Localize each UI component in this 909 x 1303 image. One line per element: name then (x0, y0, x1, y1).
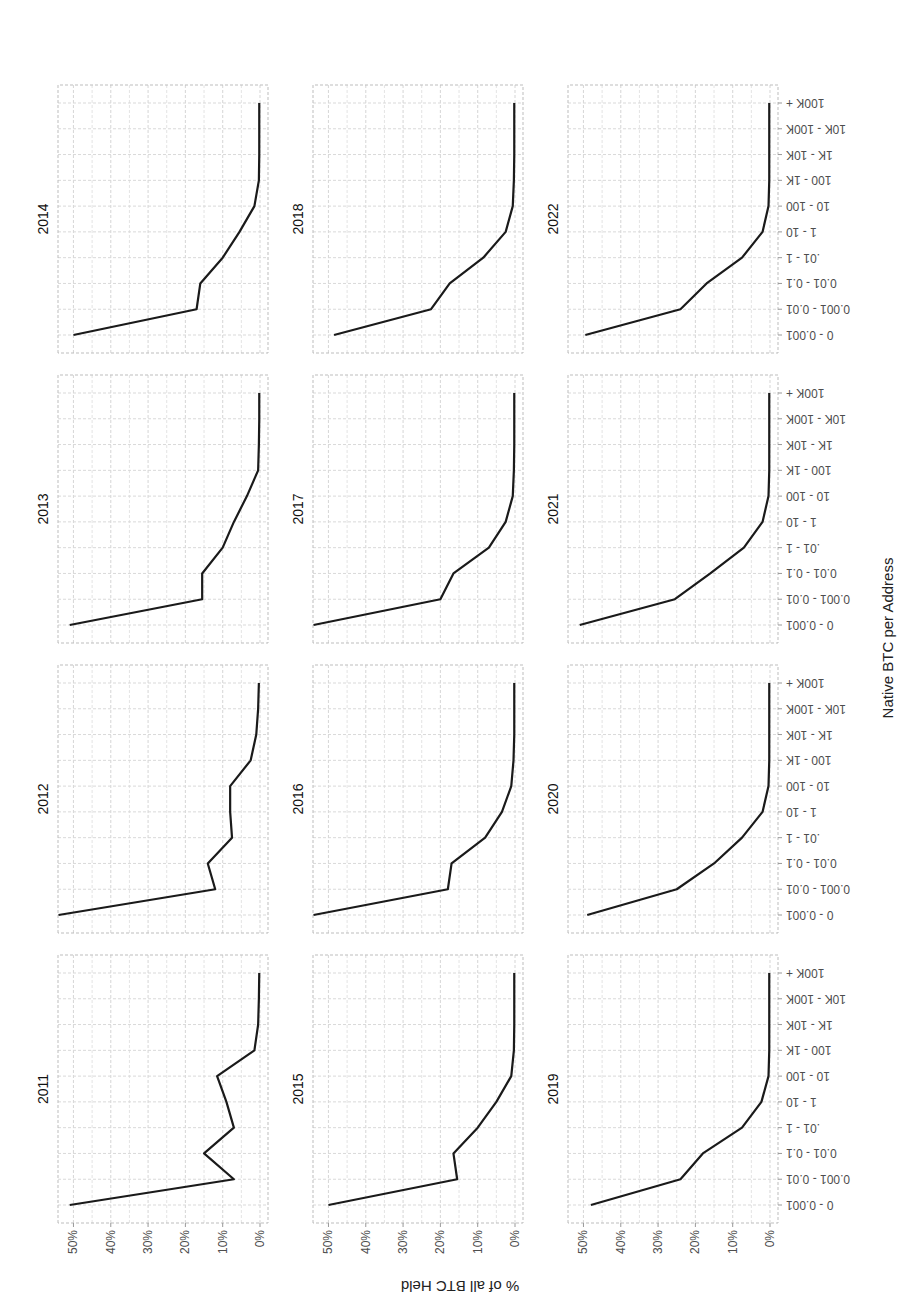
faceted-line-chart: 20110%10%20%30%40%50%20122013201420150%1… (0, 0, 909, 1303)
panel-title: 2019 (545, 1073, 561, 1104)
x-tick-label: 100K + (786, 96, 824, 110)
facet-panel-2022: 20220 - 0.0010.001 - 0.010.01 - 0.1.01 -… (545, 85, 850, 353)
x-tick-label: 1 - 10 (786, 515, 817, 529)
y-tick-label: 10% (726, 1230, 740, 1254)
x-tick-label: 10K - 100K (786, 412, 846, 426)
x-tick-label: 0 - 0.001 (786, 328, 834, 342)
x-tick-label: .01 - 1 (786, 251, 820, 265)
series-line (70, 973, 260, 1205)
x-tick-label: 10 - 100 (786, 489, 830, 503)
facet-panel-2018: 2018 (290, 85, 523, 353)
x-tick-label: 100K + (786, 966, 824, 980)
panel-title: 2021 (545, 493, 561, 524)
x-tick-label: 1K - 10K (786, 438, 833, 452)
facet-panel-2019: 20190%10%20%30%40%50%0 - 0.0010.001 - 0.… (545, 955, 850, 1254)
series-line (314, 393, 515, 625)
x-tick-label: .01 - 1 (786, 1121, 820, 1135)
x-tick-label: 10K - 100K (786, 992, 846, 1006)
y-tick-label: 50% (321, 1230, 335, 1254)
series-line (70, 393, 260, 625)
x-tick-label: 100K + (786, 676, 824, 690)
y-axis-title: % of all BTC Held (401, 1278, 519, 1295)
x-tick-label: 0 - 0.001 (786, 908, 834, 922)
x-tick-label: 0.001 - 0.01 (786, 302, 850, 316)
y-tick-label: 20% (178, 1230, 192, 1254)
x-tick-label: 0.001 - 0.01 (786, 592, 850, 606)
y-tick-label: 40% (614, 1230, 628, 1254)
panel-grid: 20110%10%20%30%40%50%20122013201420150%1… (35, 85, 850, 1254)
x-tick-label: 100 - 1K (786, 173, 831, 187)
x-tick-label: 1K - 10K (786, 148, 833, 162)
series-line (591, 973, 769, 1205)
y-tick-label: 40% (359, 1230, 373, 1254)
x-tick-label: 10 - 100 (786, 1069, 830, 1083)
y-tick-label: 10% (216, 1230, 230, 1254)
y-tick-label: 30% (651, 1230, 665, 1254)
x-tick-label: 1 - 10 (786, 225, 817, 239)
y-tick-label: 0% (253, 1230, 267, 1248)
x-tick-label: 1K - 10K (786, 728, 833, 742)
y-tick-label: 50% (66, 1230, 80, 1254)
x-tick-label: 100 - 1K (786, 1043, 831, 1057)
series-line (580, 393, 770, 625)
y-tick-label: 40% (104, 1230, 118, 1254)
facet-panel-2021: 20210 - 0.0010.001 - 0.010.01 - 0.1.01 -… (545, 375, 850, 643)
panel-title: 2013 (35, 493, 51, 524)
x-axis-title: Native BTC per Address (879, 558, 896, 719)
facet-panel-2014: 2014 (35, 85, 268, 353)
panel-title: 2011 (35, 1074, 51, 1104)
x-tick-label: 10 - 100 (786, 199, 830, 213)
series-line (328, 973, 514, 1205)
x-tick-label: 10K - 100K (786, 702, 846, 716)
panel-title: 2018 (290, 203, 306, 234)
facet-panel-2020: 20200 - 0.0010.001 - 0.010.01 - 0.1.01 -… (545, 665, 850, 933)
series-line (587, 683, 769, 915)
y-tick-label: 30% (396, 1230, 410, 1254)
x-tick-label: 0.01 - 0.1 (786, 1146, 837, 1160)
facet-panel-2017: 2017 (290, 375, 523, 643)
y-tick-label: 20% (688, 1230, 702, 1254)
x-tick-label: 0.001 - 0.01 (786, 1172, 850, 1186)
facet-panel-2015: 20150%10%20%30%40%50% (290, 955, 523, 1254)
x-tick-label: 100 - 1K (786, 753, 831, 767)
y-tick-label: 30% (141, 1230, 155, 1254)
facet-panel-2016: 2016 (290, 665, 523, 933)
series-line (334, 103, 514, 335)
panel-title: 2012 (35, 783, 51, 814)
x-tick-label: 10K - 100K (786, 122, 846, 136)
y-tick-label: 0% (508, 1230, 522, 1248)
facet-panel-2011: 20110%10%20%30%40%50% (35, 955, 268, 1254)
x-tick-label: 0.01 - 0.1 (786, 856, 837, 870)
y-tick-label: 10% (471, 1230, 485, 1254)
panel-title: 2017 (290, 493, 306, 524)
x-tick-label: 0 - 0.001 (786, 618, 834, 632)
y-tick-label: 50% (576, 1230, 590, 1254)
series-line (59, 683, 259, 915)
facet-panel-2012: 2012 (35, 665, 268, 933)
series-line (585, 103, 769, 335)
series-line (314, 683, 515, 915)
panel-title: 2016 (290, 783, 306, 814)
x-tick-label: 10 - 100 (786, 779, 830, 793)
x-tick-label: .01 - 1 (786, 831, 820, 845)
x-tick-label: 0 - 0.001 (786, 1198, 834, 1212)
x-tick-label: 100 - 1K (786, 463, 831, 477)
x-tick-label: .01 - 1 (786, 541, 820, 555)
panel-title: 2015 (290, 1073, 306, 1104)
x-tick-label: 1 - 10 (786, 805, 817, 819)
x-tick-label: 0.01 - 0.1 (786, 566, 837, 580)
x-tick-label: 0.001 - 0.01 (786, 882, 850, 896)
panel-title: 2022 (545, 203, 561, 234)
panel-title: 2020 (545, 783, 561, 814)
x-tick-label: 100K + (786, 386, 824, 400)
x-tick-label: 1 - 10 (786, 1095, 817, 1109)
panel-title: 2014 (35, 203, 51, 234)
rotated-chart-container: 20110%10%20%30%40%50%20122013201420150%1… (0, 0, 909, 1303)
y-tick-label: 0% (763, 1230, 777, 1248)
series-line (73, 103, 259, 335)
y-tick-label: 20% (433, 1230, 447, 1254)
x-tick-label: 1K - 10K (786, 1018, 833, 1032)
x-tick-label: 0.01 - 0.1 (786, 276, 837, 290)
facet-panel-2013: 2013 (35, 375, 268, 643)
